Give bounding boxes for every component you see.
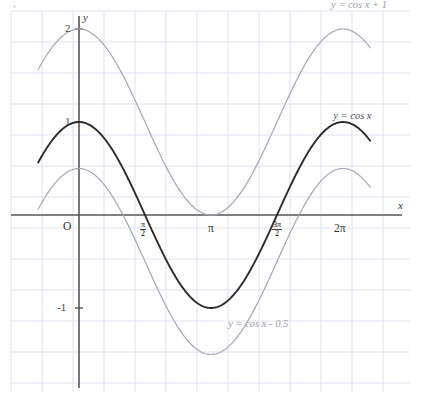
x-tick-label: π [208,223,214,235]
curve-2 [38,169,370,355]
x-axis-label: x [398,200,403,211]
origin-label: O [63,221,71,233]
y-tick-label: 1 [65,116,71,127]
x-tick-label: 2π [334,223,346,235]
curve-0 [38,29,370,215]
plot-layer [0,0,421,412]
x-tick-label-fraction: π2 [140,220,146,238]
y-tick-label: -1 [57,302,66,313]
y-tick-label: 2 [65,23,71,34]
curve-equation-label: y = cos x + 1 [331,0,387,10]
curve-equation-label: y = cos x - 0.5 [228,319,288,330]
x-tick-label-fraction: 3π2 [272,220,282,238]
y-axis-label: y [83,12,88,23]
curve-equation-label: y = cos x [333,111,371,122]
cosine-graph-figure: y x O 21-1π2ππ23π2 y = cos x + 1y = cos … [0,0,421,412]
